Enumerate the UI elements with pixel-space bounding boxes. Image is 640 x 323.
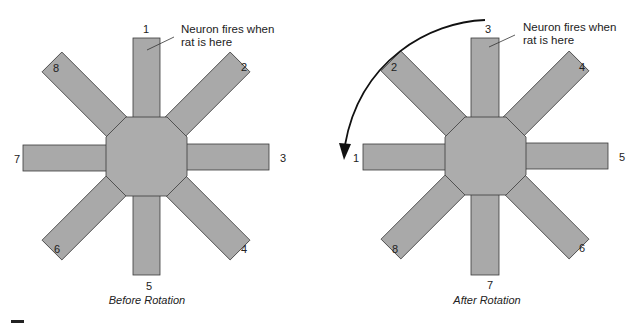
maze-before-rotation: 1 2 3 4 5 6 7 8 Neuron fires when rat is…	[14, 23, 286, 306]
maze-after-rotation: 3 4 5 6 7 8 1 2 Neuron fires when rat is…	[339, 20, 625, 306]
arm-label-bottom-right: 4	[241, 243, 247, 255]
arm-label-top-left: 8	[53, 62, 59, 74]
arm-label-bottom: 5	[146, 280, 152, 292]
arm-label-bottom: 7	[487, 279, 493, 291]
arm-label-bottom-left: 8	[392, 243, 398, 255]
arm-label-top-right: 2	[241, 61, 247, 73]
annotation-line-1: Neuron fires when	[181, 23, 274, 35]
arm-left	[23, 145, 107, 171]
arm-label-top-left: 2	[391, 61, 397, 73]
annotation-line-2: rat is here	[181, 36, 232, 48]
arm-bottom	[133, 195, 160, 275]
arm-top	[133, 38, 160, 118]
arm-bottom	[471, 194, 499, 275]
arm-label-bottom-left: 6	[54, 243, 60, 255]
arm-left	[363, 144, 446, 170]
central-platform	[106, 117, 187, 196]
arm-top-right	[502, 51, 589, 138]
caption-before-rotation: Before Rotation	[109, 294, 185, 306]
arm-right	[186, 144, 269, 170]
arm-right	[525, 143, 608, 169]
arm-label-left: 1	[353, 152, 359, 164]
arm-label-top-right: 4	[579, 61, 585, 73]
central-platform	[445, 117, 526, 195]
arm-label-top: 3	[485, 23, 491, 35]
arm-label-top: 1	[143, 23, 149, 35]
caption-after-rotation: After Rotation	[452, 294, 520, 306]
annotation-line-2: rat is here	[523, 34, 574, 46]
radial-maze-figure: 1 2 3 4 5 6 7 8 Neuron fires when rat is…	[0, 0, 640, 323]
arm-top	[471, 38, 499, 118]
arm-label-right: 3	[280, 152, 286, 164]
annotation-line-1: Neuron fires when	[523, 21, 616, 33]
arrowhead-icon	[339, 143, 351, 160]
arm-label-bottom-right: 6	[579, 242, 585, 254]
arm-label-left: 7	[14, 153, 20, 165]
arm-label-right: 5	[619, 151, 625, 163]
